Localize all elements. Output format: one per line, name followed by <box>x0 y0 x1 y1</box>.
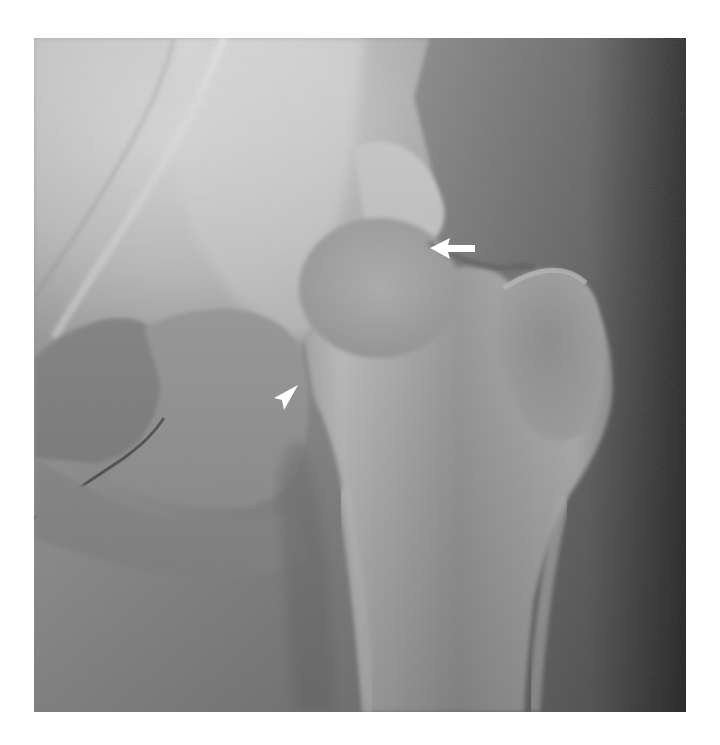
xray-canvas <box>34 38 686 712</box>
xray-image <box>34 38 686 712</box>
bottom-vignette <box>34 38 686 712</box>
